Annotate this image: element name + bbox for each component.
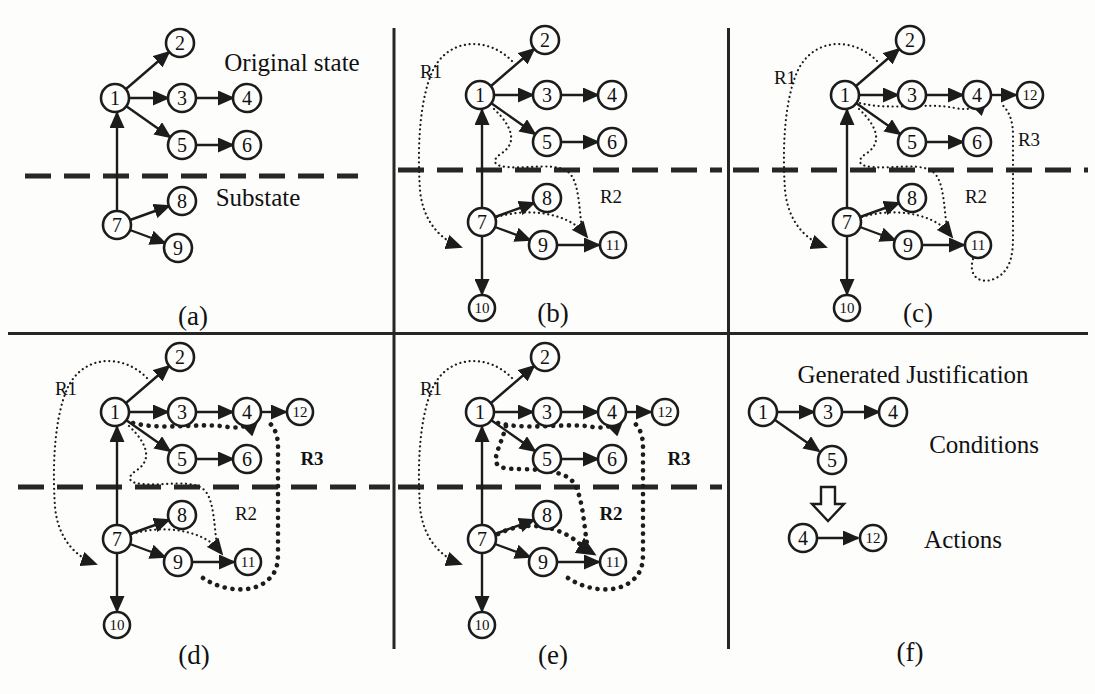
node-8-label: 8 — [907, 187, 917, 209]
node-5-label: 5 — [177, 448, 187, 470]
node-1-label: 1 — [110, 87, 120, 109]
edge-7-8 — [130, 520, 169, 534]
panel-b: 1 2 3 4 5 6 7 8 9 10 11 R1 R2 (b) — [398, 26, 722, 328]
panel-a: 1 2 3 4 5 6 7 8 9 Original state Substat… — [25, 29, 360, 331]
edge-1-5 — [856, 103, 900, 134]
node-1-label: 1 — [475, 84, 485, 106]
node-6-label: 6 — [607, 448, 617, 470]
conditions-label: Conditions — [929, 431, 1039, 458]
panel-d: 1 2 3 4 5 6 7 8 9 10 11 12 R1 R2 R3 (d) — [18, 343, 390, 670]
rule-r1-label: R1 — [55, 378, 77, 399]
rule-r2-curve-from-7 — [862, 212, 948, 231]
rule-r2-label: R2 — [965, 186, 987, 207]
node-6-label: 6 — [242, 448, 252, 470]
edge-7-8 — [860, 203, 899, 217]
implies-arrow-icon — [812, 487, 844, 521]
rule-r1-label: R1 — [420, 61, 442, 82]
node-3-label: 3 — [907, 84, 917, 106]
node-8-label: 8 — [542, 187, 552, 209]
node-3-label: 3 — [177, 401, 187, 423]
edge-1-5 — [775, 420, 819, 451]
node-9-label: 9 — [173, 237, 183, 259]
node-8-label: 8 — [542, 504, 552, 526]
rule-r2-label: R2 — [235, 503, 257, 524]
edge-7-9 — [495, 544, 530, 557]
node-8-label: 8 — [177, 190, 187, 212]
node-4-label: 4 — [972, 84, 982, 106]
edge-7-8 — [495, 203, 534, 217]
edge-1-2 — [491, 366, 534, 403]
node-7-label: 7 — [477, 211, 487, 233]
node-6-label: 6 — [972, 131, 982, 153]
node-12-label: 12 — [658, 404, 673, 420]
rule-r2-curve-from-7 — [497, 212, 583, 231]
node-3-label: 3 — [177, 87, 187, 109]
node-5-label: 5 — [177, 134, 187, 156]
node-9-label: 9 — [903, 234, 913, 256]
edge-7-9 — [130, 544, 165, 557]
node-1-label: 1 — [840, 84, 850, 106]
node-7-label: 7 — [112, 528, 122, 550]
node-10-label: 10 — [110, 617, 125, 633]
node-2-label: 2 — [540, 346, 550, 368]
panel-e: 1 2 3 4 5 6 7 8 9 10 11 12 R1 R2 R3 (e) — [398, 343, 722, 670]
node-12-label: 12 — [1023, 87, 1038, 103]
figure-svg: 1 2 3 4 5 6 7 8 9 Original state Substat… — [0, 0, 1095, 694]
node-9-label: 9 — [173, 551, 183, 573]
node-6-label: 6 — [607, 131, 617, 153]
edge-1-2 — [856, 49, 899, 86]
rule-r2-curve-from-7 — [132, 529, 218, 548]
node-5-label: 5 — [542, 131, 552, 153]
rule-r3-label: R3 — [1018, 129, 1040, 150]
node-12-label: 12 — [293, 404, 308, 420]
panel-d-caption: (d) — [178, 640, 209, 670]
edge-7-9 — [860, 227, 895, 240]
node-11-label: 11 — [971, 237, 985, 253]
rule-r3-label: R3 — [300, 448, 323, 469]
condition-node-4-label: 4 — [888, 401, 898, 423]
node-10-label: 10 — [475, 617, 490, 633]
rule-r3-label: R3 — [667, 448, 690, 469]
rule-r2-label: R2 — [599, 503, 622, 524]
condition-node-3-label: 3 — [823, 401, 833, 423]
rule-r2-label: R2 — [600, 186, 622, 207]
node-2-label: 2 — [905, 29, 915, 51]
edge-1-2 — [126, 52, 169, 89]
generated-justification-title: Generated Justification — [797, 361, 1029, 388]
panel-e-caption: (e) — [538, 640, 568, 670]
node-2-label: 2 — [540, 29, 550, 51]
node-11-label: 11 — [241, 554, 255, 570]
substate-label: Substate — [216, 184, 301, 211]
panel-c: 1 2 3 4 5 6 7 8 9 10 11 12 R1 R2 R3 (c) — [733, 26, 1088, 328]
node-9-label: 9 — [538, 551, 548, 573]
action-node-12-label: 12 — [866, 530, 881, 546]
node-2-label: 2 — [175, 32, 185, 54]
node-8-label: 8 — [177, 504, 187, 526]
edge-1-2 — [126, 366, 169, 403]
node-9-label: 9 — [538, 234, 548, 256]
node-5-label: 5 — [542, 448, 552, 470]
condition-node-5-label: 5 — [827, 449, 837, 471]
edge-1-2 — [491, 49, 534, 86]
node-4-label: 4 — [607, 84, 617, 106]
action-node-4-label: 4 — [798, 527, 808, 549]
panel-a-caption: (a) — [178, 301, 208, 331]
node-6-label: 6 — [242, 134, 252, 156]
edge-7-9 — [130, 230, 165, 243]
node-7-label: 7 — [477, 528, 487, 550]
node-1-label: 1 — [110, 401, 120, 423]
node-4-label: 4 — [607, 401, 617, 423]
node-11-label: 11 — [606, 237, 620, 253]
node-4-label: 4 — [242, 87, 252, 109]
panel-f: Generated Justification 1 3 4 5 Conditio… — [749, 361, 1039, 668]
node-3-label: 3 — [542, 84, 552, 106]
node-1-label: 1 — [475, 401, 485, 423]
edge-7-8 — [130, 206, 169, 220]
rule-r1-label: R1 — [774, 67, 796, 88]
node-2-label: 2 — [175, 346, 185, 368]
edge-1-5 — [491, 103, 535, 134]
figure-canvas: 1 2 3 4 5 6 7 8 9 Original state Substat… — [0, 0, 1095, 694]
node-10-label: 10 — [475, 300, 490, 316]
edge-1-5 — [126, 106, 170, 137]
panel-c-caption: (c) — [903, 298, 933, 328]
